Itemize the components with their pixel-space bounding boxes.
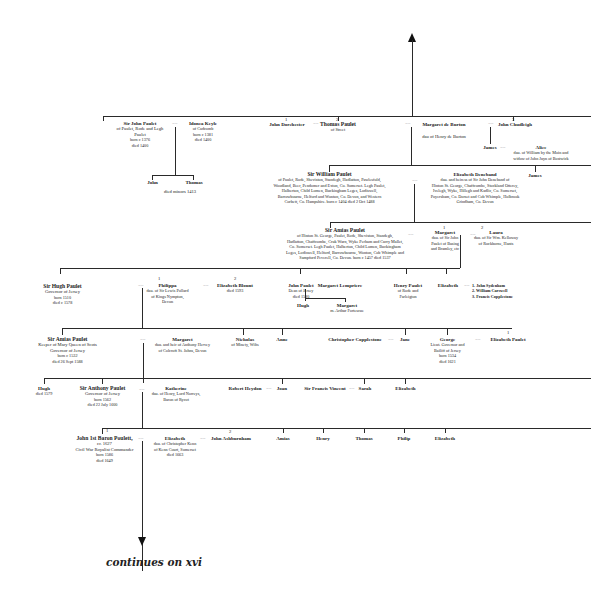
connector — [142, 392, 143, 428]
person-george: George Lieut. Governor and Bailiff of Je… — [425, 337, 470, 364]
connector — [102, 428, 103, 434]
person-sir-anthony-paulet: Sir Anthony Paulet Governor of Jersey bo… — [70, 386, 135, 408]
person-james-2: James — [525, 173, 545, 178]
connector — [175, 127, 176, 175]
arrow-down-icon — [138, 537, 146, 546]
marriage-sign: == — [412, 178, 418, 183]
person-jane: Jane — [396, 337, 414, 342]
connector — [446, 268, 447, 274]
person-henry-paulet: Henry Paulet of Rode and Farleigton — [388, 283, 428, 299]
person-sir-william-paulet: Sir William Paulet of Paulet, Rode, Shev… — [252, 172, 407, 204]
marriage-sign: == — [200, 436, 206, 441]
person-james: James — [480, 145, 500, 150]
connector — [143, 343, 144, 383]
person-elizabeth-paulet: Elizabeth Paulet — [483, 337, 533, 342]
connector — [44, 378, 45, 384]
connector — [490, 127, 491, 144]
connector — [152, 175, 193, 176]
connector — [305, 289, 306, 301]
person-nicholas: Nicholas of Minety, Wilts — [225, 337, 265, 348]
connector — [460, 235, 461, 268]
connector — [62, 328, 63, 335]
person-thomas: Thomas — [180, 180, 208, 185]
continues-label: continues on xvi — [106, 556, 202, 568]
person-elizabeth-deneband: Elizabeth Deneband dau. and heiress of S… — [420, 172, 530, 204]
connector — [44, 378, 591, 379]
person-philippa: Philippa dau. of Sir Lewis Pollard of Ki… — [140, 283, 195, 305]
person-henry: Henry — [312, 436, 334, 441]
order-number: 1 — [158, 276, 160, 281]
person-margaret: Margaret dau. of Sir John Paulet of Basi… — [420, 230, 470, 252]
person-elizabeth-6: Elizabeth — [393, 386, 418, 391]
person-thomas-paulet: Thomas Paulet of Street — [312, 122, 364, 133]
connector — [300, 268, 301, 274]
connector — [345, 298, 346, 302]
connector — [364, 428, 365, 433]
order-number: 1 — [106, 428, 108, 433]
connector — [305, 298, 345, 299]
person-elizabeth: Elizabeth — [434, 283, 462, 288]
person-john-1st-baron-poulett: John 1st Baron Poulett, cr. 1627 Civil W… — [62, 436, 147, 463]
person-anne: Anne — [272, 337, 292, 342]
person-sarah: Sarah — [356, 386, 374, 391]
order-number: 2 — [229, 429, 231, 434]
person-sir-francis-vincent: Sir Francis Vincent — [300, 386, 350, 391]
connector — [60, 268, 61, 274]
person-katherine: Katherine dau. of Henry, Lord Norreys, B… — [146, 386, 206, 402]
elizabeth-husbands: 1. John Sydenham 2. William Carswell 3. … — [472, 283, 522, 299]
person-john-dorchester: John Dorchester — [262, 122, 312, 127]
connector — [404, 428, 405, 433]
connector — [406, 268, 407, 274]
person-hugh-child: Hugh — [292, 303, 314, 308]
connector — [414, 184, 415, 222]
connector — [60, 268, 460, 269]
marriage-sign: == — [266, 386, 272, 391]
marriage-sign: == — [302, 283, 308, 288]
marriage-sign: == — [405, 121, 411, 126]
person-philip: Philip — [394, 436, 414, 441]
connector — [282, 328, 283, 335]
connector — [412, 40, 413, 116]
connector — [323, 428, 324, 433]
person-elizabeth-blount: Elizabeth Blount died 1593 — [210, 283, 260, 294]
person-john: John — [140, 180, 165, 185]
connector — [329, 165, 591, 166]
connector — [102, 378, 103, 384]
marriage-sign: == — [475, 337, 481, 342]
connector — [282, 378, 283, 384]
connector — [447, 328, 448, 335]
connector — [243, 328, 244, 335]
person-laura: Laura dau. of Sir Wm. Kelloway of Rockbo… — [470, 230, 522, 246]
connector — [103, 116, 591, 117]
connector — [283, 428, 284, 433]
children-note: died minors 1413 — [150, 189, 210, 194]
person-john-ashburnham: John Ashburnham — [207, 436, 255, 441]
person-john-chudleigh: John Chudleigh — [495, 122, 535, 127]
person-sir-hugh-paulet: Sir Hugh Paulet Governor of Jersey born … — [35, 284, 90, 306]
person-idonea-keyle: Idonea Keyle of Cadcomb born c 1381 died… — [178, 121, 228, 143]
marriage-sign: == — [408, 232, 414, 237]
marriage-sign: == — [388, 337, 394, 342]
person-margaret-de-burton: Margaret de Burton — [414, 122, 474, 127]
person-sir-john-paulet: Sir John Paulet of Paulet, Rode and Legh… — [100, 121, 180, 148]
person-joan: Joan — [274, 386, 290, 391]
person-thomas-7: Thomas — [352, 436, 376, 441]
connector — [62, 328, 512, 329]
marriage-sign: == — [172, 121, 178, 126]
person-hugh: Hugh died 1579 — [30, 386, 58, 397]
connector — [364, 378, 365, 384]
connector — [445, 428, 446, 433]
order-number: 2 — [234, 276, 236, 281]
marriage-sign: == — [488, 121, 494, 126]
person-alice: Alice dau. of William by the Moin and wi… — [505, 145, 577, 161]
person-elizabeth-kenn: Elizabeth dau. of Christopher Kenn of Ke… — [145, 436, 205, 458]
connector — [405, 328, 406, 335]
person-margaret-lempriere: Margaret Lempriere — [310, 283, 370, 288]
person-elizabeth-7: Elizabeth — [432, 436, 458, 441]
person-robert-heydon: Robert Heydon — [225, 386, 265, 391]
connector — [405, 378, 406, 384]
connector — [330, 222, 591, 223]
margaret-note: dau of Henry de Burton — [414, 134, 474, 139]
connector — [142, 441, 143, 571]
person-margaret-hervey: Margaret dau. and heir of Anthony Hervey… — [145, 337, 220, 353]
